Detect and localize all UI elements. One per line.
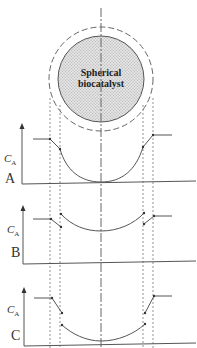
axis-arrow-icon	[21, 205, 26, 211]
panel-label-a: A	[5, 171, 16, 186]
concentration-profile-inner	[61, 213, 144, 231]
concentration-profile-left	[34, 298, 62, 313]
panel-a	[20, 123, 197, 184]
concentration-profile-right	[144, 216, 172, 224]
axis-label-c: CA	[7, 303, 19, 318]
concentration-profile-right	[145, 296, 172, 313]
panel-label-c: C	[11, 328, 20, 343]
diagram-canvas: Spherical biocatalyst CA A CA	[0, 0, 196, 348]
axis-arrow-icon	[22, 287, 27, 293]
panel-label-b: B	[11, 245, 20, 260]
concentration-profile-left	[33, 219, 61, 227]
axis-label-b: CA	[7, 223, 19, 238]
x-axis	[23, 261, 196, 264]
axis-label-a: CA	[4, 152, 16, 167]
panel-c	[22, 287, 197, 346]
panel-b	[21, 205, 197, 264]
concentration-profile	[33, 135, 172, 182]
concentration-profile-inner	[62, 324, 145, 341]
axis-arrow-icon	[20, 123, 25, 129]
